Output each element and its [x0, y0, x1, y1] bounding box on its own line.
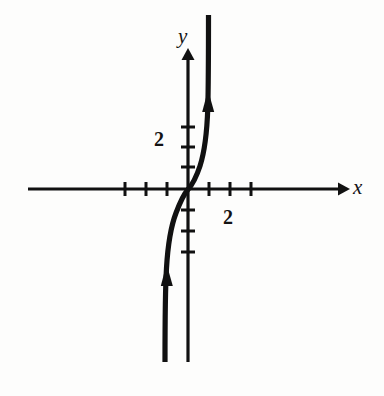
- y-axis-label: y: [178, 26, 187, 47]
- x-axis-arrowhead-icon: [338, 183, 350, 196]
- curve-upper-arrowhead-icon: [202, 90, 214, 112]
- y-axis-arrowhead-icon: [182, 48, 195, 60]
- curve-lower-arrowhead-icon: [161, 264, 173, 286]
- y-axis: [182, 48, 195, 362]
- x-axis-label: x: [353, 177, 362, 198]
- y-tick-label-2: 2: [154, 129, 164, 149]
- graph-figure: y x 2 2: [0, 0, 384, 396]
- cubic-graph-plot: [0, 0, 384, 396]
- x-tick-label-2: 2: [223, 207, 233, 227]
